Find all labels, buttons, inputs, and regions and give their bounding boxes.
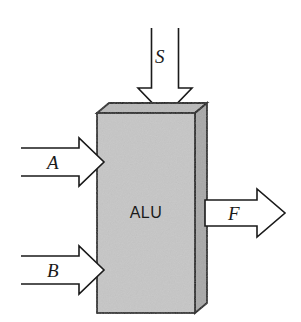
port-label-f: F [227,203,240,224]
alu-box-top-face [97,103,207,113]
alu-diagram: S ALU A B F [0,0,301,322]
port-label-b: B [47,260,59,281]
port-arrow-f [205,189,285,237]
port-label-s: S [155,46,165,67]
alu-diagram-canvas: S ALU A B F [0,0,301,322]
port-label-a: A [45,152,59,173]
f-arrow-shape [205,189,285,237]
port-arrow-a [21,138,104,186]
a-arrow-shape [21,138,104,186]
alu-block-label: ALU [130,204,163,221]
port-arrow-b [21,246,104,294]
b-arrow-shape [21,246,104,294]
